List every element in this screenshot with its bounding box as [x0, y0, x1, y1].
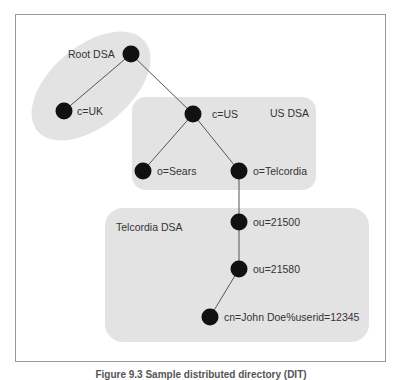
node-o-telcordia	[231, 163, 248, 180]
ou-21580-label: ou=21580	[253, 263, 300, 275]
node-c-uk	[56, 103, 73, 120]
node-cn-john-doe	[202, 309, 219, 326]
node-root	[123, 46, 140, 63]
o-sears-label: o=Sears	[157, 165, 196, 177]
o-telcordia-label: o=Telcordia	[253, 165, 307, 177]
figure-caption: Figure 9.3 Sample distributed directory …	[0, 369, 402, 380]
cn-john-doe-label: cn=John Doe%userid=12345	[224, 311, 360, 323]
root-dsa-label: Root DSA	[68, 48, 115, 60]
node-ou-21580	[231, 261, 248, 278]
node-c-us	[185, 106, 202, 123]
ou-21500-label: ou=21500	[253, 216, 300, 228]
node-ou-21500	[231, 214, 248, 231]
c-uk-label: c=UK	[77, 105, 103, 117]
node-o-sears	[135, 163, 152, 180]
c-us-label: c=US	[212, 108, 238, 120]
telcordia-dsa-label: Telcordia DSA	[116, 221, 183, 233]
us-dsa-label: US DSA	[270, 107, 309, 119]
